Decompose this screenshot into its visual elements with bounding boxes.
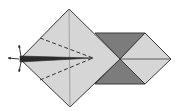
- origami-diagram: [0, 0, 186, 111]
- origami-fold-diagram: [0, 0, 186, 111]
